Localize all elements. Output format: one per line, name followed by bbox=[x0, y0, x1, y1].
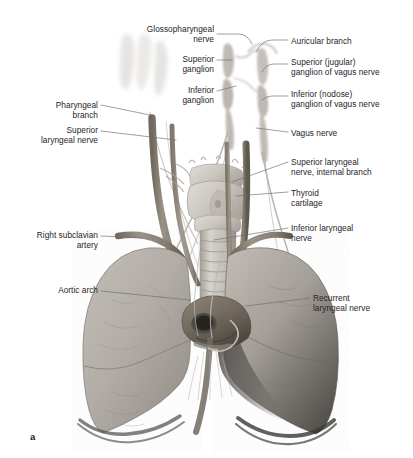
label-pharyngeal-branch: Pharyngeal branch bbox=[10, 100, 98, 120]
label-glossopharyngeal-nerve: Glossopharyngeal nerve bbox=[124, 24, 214, 44]
anatomy-figure: Glossopharyngeal nerve Superior ganglion… bbox=[0, 0, 413, 458]
label-aortic-arch: Aortic arch bbox=[10, 285, 98, 295]
label-superior-jugular-ganglion-of-vagus-nerve: Superior (jugular) ganglion of vagus ner… bbox=[291, 57, 413, 77]
figure-panel-label: a bbox=[30, 431, 35, 442]
inferior-ganglion-shape bbox=[223, 79, 234, 110]
label-inferior-ganglion: Inferior ganglion bbox=[124, 85, 214, 105]
label-superior-laryngeal-nerve-internal-branch: Superior laryngeal nerve, internal branc… bbox=[291, 157, 413, 177]
right-lung bbox=[78, 248, 191, 442]
label-auricular-branch: Auricular branch bbox=[291, 36, 411, 46]
label-vagus-nerve: Vagus nerve bbox=[291, 128, 411, 138]
label-recurrent-laryngeal-nerve: Recurrent laryngeal nerve bbox=[313, 293, 413, 313]
label-superior-laryngeal-nerve: Superior laryngeal nerve bbox=[10, 125, 98, 145]
label-right-subclavian-artery: Right subclavian artery bbox=[10, 230, 98, 250]
superior-ganglion-shape bbox=[223, 43, 235, 78]
vagus-inferior-ganglion-right bbox=[258, 85, 269, 117]
label-superior-ganglion: Superior ganglion bbox=[124, 54, 214, 74]
label-inferior-laryngeal-nerve: Inferior laryngeal nerve bbox=[291, 223, 411, 243]
vagus-ganglion-column bbox=[223, 43, 278, 163]
label-inferior-nodose-ganglion-of-vagus-nerve: Inferior (nodose) ganglion of vagus nerv… bbox=[291, 89, 413, 109]
label-thyroid-cartilage: Thyroid cartilage bbox=[291, 188, 411, 208]
left-lung bbox=[218, 248, 339, 444]
